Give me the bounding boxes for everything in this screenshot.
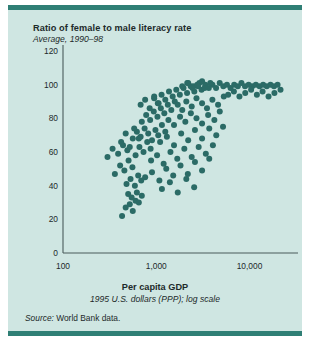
data-point: [225, 92, 231, 98]
data-point: [124, 181, 130, 187]
data-point: [199, 78, 205, 84]
data-point: [159, 186, 165, 192]
data-point: [199, 120, 205, 126]
data-point: [199, 168, 205, 174]
data-point: [163, 166, 169, 172]
data-point: [181, 146, 187, 152]
data-point: [171, 122, 177, 128]
data-point: [157, 139, 163, 145]
data-point: [104, 154, 110, 160]
data-point: [179, 83, 185, 89]
data-points: [104, 78, 283, 219]
data-point: [142, 125, 148, 131]
data-point: [278, 87, 284, 93]
data-point: [173, 87, 179, 93]
data-point: [115, 151, 121, 157]
data-point: [168, 107, 174, 113]
source-note: Source: World Bank data.: [25, 313, 120, 323]
data-point: [193, 95, 199, 101]
data-point: [134, 189, 140, 195]
data-point: [166, 88, 172, 94]
data-point: [117, 162, 123, 168]
data-point: [149, 169, 155, 175]
data-point: [207, 80, 213, 86]
data-point: [185, 137, 191, 143]
data-point: [192, 127, 198, 133]
data-point: [178, 130, 184, 136]
data-point: [254, 92, 260, 98]
data-point: [236, 93, 242, 99]
data-point: [188, 110, 194, 116]
y-axis-tick-label: 0: [22, 248, 58, 258]
data-point: [204, 105, 210, 111]
y-axis-tick-label: 120: [22, 46, 58, 56]
data-point: [135, 173, 141, 179]
data-point: [154, 114, 160, 120]
data-point: [133, 152, 139, 158]
data-point: [275, 82, 281, 88]
data-point: [183, 176, 189, 182]
data-point: [205, 112, 211, 118]
data-point: [175, 189, 181, 195]
data-point: [170, 93, 176, 99]
data-point: [189, 154, 195, 160]
data-point: [202, 85, 208, 91]
data-point: [110, 146, 116, 152]
data-point: [199, 100, 205, 106]
y-axis-tick-label: 80: [22, 113, 58, 123]
data-point: [156, 100, 162, 106]
data-point: [220, 124, 226, 130]
data-point: [231, 88, 237, 94]
data-point: [164, 134, 170, 140]
data-point: [162, 97, 168, 103]
data-point: [206, 125, 212, 131]
source-label: Source:: [25, 313, 54, 323]
y-axis-tick-label: 100: [22, 80, 58, 90]
data-point: [196, 144, 202, 150]
data-point: [215, 102, 221, 108]
data-point: [161, 110, 167, 116]
data-point: [177, 114, 183, 120]
data-point: [170, 173, 176, 179]
data-point: [183, 99, 189, 105]
data-point: [211, 117, 217, 123]
data-point: [142, 174, 148, 180]
data-point: [130, 208, 136, 214]
data-point: [210, 142, 216, 148]
data-point: [130, 136, 136, 142]
figure-panel: Ratio of female to male literacy rate Av…: [8, 5, 302, 336]
data-point: [151, 93, 157, 99]
data-point: [112, 171, 118, 177]
data-point: [178, 162, 184, 168]
data-point: [213, 85, 219, 91]
x-axis-subtitle: 1995 U.S. dollars (PPP); log scale: [8, 294, 302, 304]
data-point: [260, 88, 266, 94]
data-point: [127, 201, 133, 207]
data-point: [143, 112, 149, 118]
data-point: [121, 168, 127, 174]
data-point: [152, 127, 158, 133]
data-point: [182, 119, 188, 125]
data-point: [155, 132, 161, 138]
data-point: [147, 105, 153, 111]
data-point: [175, 102, 181, 108]
data-point: [148, 146, 154, 152]
data-point: [126, 157, 132, 163]
data-point: [132, 183, 138, 189]
data-point: [191, 184, 197, 190]
data-point: [145, 130, 151, 136]
data-point: [192, 159, 198, 165]
data-point: [139, 193, 145, 199]
data-point: [159, 92, 165, 98]
data-point: [119, 213, 125, 219]
data-point: [159, 122, 165, 128]
data-point: [138, 102, 144, 108]
data-point: [184, 90, 190, 96]
data-point: [213, 132, 219, 138]
data-point: [266, 93, 272, 99]
y-axis-tick-label: 40: [22, 181, 58, 191]
data-point: [271, 90, 277, 96]
data-point: [171, 142, 177, 148]
data-point: [136, 136, 142, 142]
data-point: [123, 130, 129, 136]
